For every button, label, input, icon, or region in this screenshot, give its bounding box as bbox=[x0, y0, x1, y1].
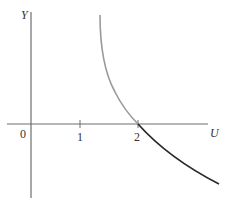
x-tick-label-2: 2 bbox=[134, 131, 140, 143]
x-tick-label-1: 1 bbox=[77, 131, 83, 143]
y-axis-label: Y bbox=[21, 9, 28, 21]
curve-below-axis bbox=[138, 124, 219, 184]
chart-plot bbox=[0, 0, 226, 204]
curve-above-axis bbox=[100, 15, 138, 124]
u-axis-label: U bbox=[210, 127, 219, 139]
origin-label: 0 bbox=[20, 128, 26, 140]
